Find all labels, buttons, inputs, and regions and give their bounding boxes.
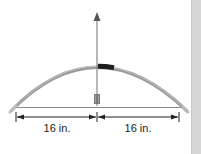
dimension-arrow-icon	[171, 115, 178, 120]
dimension-arrow-icon	[98, 115, 105, 120]
bow-diagram	[0, 0, 201, 154]
arrow-fletching	[94, 94, 100, 104]
arrowhead-icon	[94, 12, 101, 21]
page-edge-strip	[191, 0, 201, 154]
bow-tip-left	[10, 106, 16, 112]
dimension-arrow-icon	[17, 115, 24, 120]
measurement-label-left: 16 in.	[44, 122, 71, 134]
measurement-label-right: 16 in.	[125, 122, 152, 134]
bow-tip-right	[183, 107, 188, 112]
bow-grip	[98, 66, 114, 67]
dimension-arrow-icon	[89, 115, 96, 120]
